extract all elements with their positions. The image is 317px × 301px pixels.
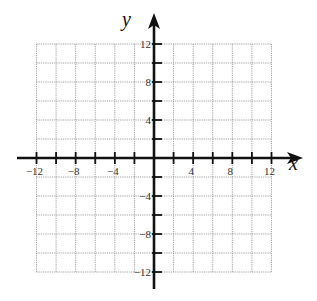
x-axis-label: x xyxy=(288,152,298,174)
x-tick-label: 12 xyxy=(264,165,275,177)
y-tick-label: −12 xyxy=(134,266,151,278)
x-tick-label: −4 xyxy=(107,165,119,177)
x-tick-label: −12 xyxy=(26,165,43,177)
y-tick-label: 8 xyxy=(146,76,152,88)
axes xyxy=(17,13,303,289)
y-tick-label: −4 xyxy=(139,190,151,202)
coordinate-plane: −12−8−448121284−4−8−12 x y xyxy=(0,0,317,301)
x-tick-label: 8 xyxy=(228,165,234,177)
y-tick-label: 12 xyxy=(140,38,151,50)
y-tick-label: 4 xyxy=(146,114,152,126)
y-axis-label: y xyxy=(120,8,131,31)
x-tick-label: 4 xyxy=(188,165,194,177)
x-tick-label: −8 xyxy=(68,165,80,177)
y-tick-label: −8 xyxy=(139,228,151,240)
